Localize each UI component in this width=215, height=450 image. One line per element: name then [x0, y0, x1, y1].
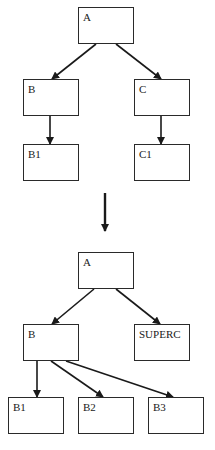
- node-b2-after: B2: [78, 397, 134, 434]
- edge-b-b2: [51, 361, 103, 397]
- edge-a-b-after: [52, 289, 94, 324]
- node-label: B1: [13, 401, 26, 413]
- edge-a-b: [52, 44, 96, 79]
- node-b-after: B: [23, 324, 79, 361]
- node-label: B3: [153, 401, 166, 413]
- node-b1-before: B1: [23, 144, 79, 181]
- edge-b-b3: [66, 361, 173, 397]
- edge-a-superc: [116, 289, 160, 324]
- node-label: B2: [83, 401, 96, 413]
- node-b-before: B: [23, 79, 79, 116]
- node-label: A: [83, 256, 91, 268]
- node-a-after: A: [78, 252, 134, 289]
- node-superc-after: SUPERC: [134, 324, 190, 361]
- node-a-before: A: [78, 7, 134, 44]
- node-label: B: [28, 83, 35, 95]
- node-b1-after: B1: [8, 397, 64, 434]
- node-c1-before: C1: [134, 144, 190, 181]
- node-b3-after: B3: [148, 397, 204, 434]
- node-label: C: [139, 83, 146, 95]
- edges-layer: [0, 0, 215, 450]
- node-label: C1: [139, 148, 152, 160]
- edge-a-c: [116, 44, 161, 79]
- node-label: SUPERC: [139, 328, 181, 340]
- node-label: A: [83, 11, 91, 23]
- node-label: B: [28, 328, 35, 340]
- node-label: B1: [28, 148, 41, 160]
- node-c-before: C: [134, 79, 190, 116]
